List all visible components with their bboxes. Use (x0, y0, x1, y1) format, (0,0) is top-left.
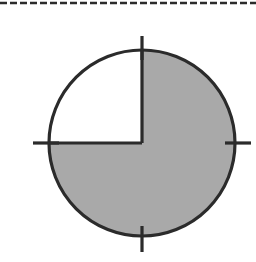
fraction-circle-figure (0, 0, 256, 262)
diagram-canvas: 3/4 (0, 0, 256, 262)
